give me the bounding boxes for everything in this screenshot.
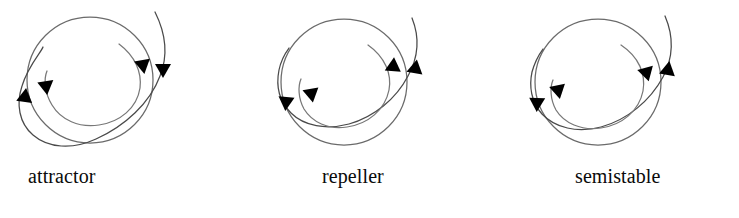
- panel-semistable: semistable: [493, 0, 739, 218]
- inner-right-arrowhead: [381, 57, 400, 77]
- outer-left-arrowhead: [529, 98, 545, 113]
- outer-right-arrowhead: [659, 60, 677, 77]
- outer-left-arrowhead: [277, 96, 294, 111]
- inner-left-arrowhead: [300, 83, 319, 103]
- limit-cycle-stability-figure: attractor repeller: [0, 0, 739, 218]
- repeller-diagram: [246, 0, 492, 165]
- semistable-diagram: [493, 0, 739, 165]
- inner-left-arrowhead: [37, 74, 58, 95]
- attractor-label: attractor: [0, 163, 246, 189]
- inner-trajectory-path: [299, 45, 390, 128]
- outer-right-arrowhead: [155, 64, 171, 78]
- attractor-diagram: [0, 0, 246, 165]
- inner-trajectory-path: [45, 44, 140, 126]
- limit-cycle-circle: [535, 19, 661, 145]
- outer-trajectory-path: [278, 18, 417, 127]
- inner-trajectory-path: [551, 45, 644, 129]
- limit-cycle-circle: [27, 17, 153, 143]
- outer-left-arrowhead: [16, 87, 34, 103]
- semistable-label: semistable: [493, 163, 739, 189]
- panel-repeller: repeller: [246, 0, 492, 218]
- panel-attractor: attractor: [0, 0, 246, 218]
- inner-right-arrowhead: [635, 62, 653, 81]
- repeller-label: repeller: [246, 163, 492, 189]
